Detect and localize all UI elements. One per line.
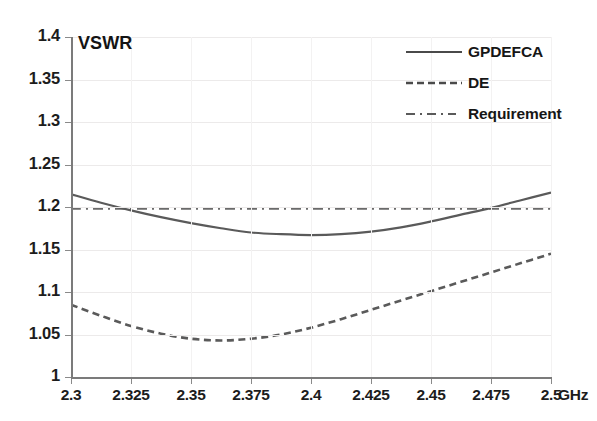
legend-item-gpdefca: GPDEFCA <box>404 36 594 67</box>
x-axis-line <box>71 377 552 379</box>
legend-label-de: DE <box>464 74 489 92</box>
y-axis-tick-label: 1.4 <box>38 26 60 45</box>
gridline <box>251 37 252 377</box>
x-axis-unit-label: GHz <box>558 386 588 404</box>
y-axis-tick-label: 1.2 <box>38 196 60 215</box>
y-axis-title: VSWR <box>78 33 132 54</box>
y-axis-line <box>71 37 73 378</box>
gridline <box>311 37 312 377</box>
legend-item-de: DE <box>404 67 594 98</box>
legend-label-gpdefca: GPDEFCA <box>464 43 543 61</box>
y-axis-tick-label: 1.35 <box>29 69 60 88</box>
gridline <box>191 37 192 377</box>
gridline <box>131 37 132 377</box>
y-axis-tick-label: 1.15 <box>29 239 60 258</box>
y-axis-tick-label: 1.05 <box>29 324 60 343</box>
vswr-chart-figure: 1.41.351.31.251.21.151.11.051 2.32.3252.… <box>0 0 597 421</box>
legend-item-requirement: Requirement <box>404 98 594 129</box>
legend-swatch-dashdot-icon <box>404 107 464 121</box>
legend-swatch-dashed-icon <box>404 76 464 90</box>
y-axis-tick-label: 1 <box>51 366 60 385</box>
y-axis-tick-label: 1.1 <box>38 281 60 300</box>
chart-legend: GPDEFCA DE Requirement <box>404 36 594 129</box>
gridline <box>371 37 372 377</box>
legend-label-requirement: Requirement <box>464 105 562 123</box>
y-axis-tick-label: 1.3 <box>38 111 60 130</box>
legend-swatch-solid-icon <box>404 45 464 59</box>
y-axis-tick-label: 1.25 <box>29 154 60 173</box>
